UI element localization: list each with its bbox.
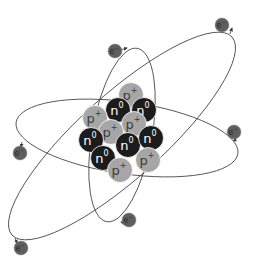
electron: e−: [108, 44, 122, 58]
proton: p+: [136, 148, 161, 173]
atom-diagram: p+n0n0p+p+p+n0n0n0n0p+p+ e−e−e−e−e−e−: [0, 0, 255, 268]
electron: e−: [14, 241, 28, 255]
neutron: n0: [139, 126, 164, 151]
nucleus: p+n0n0p+p+p+n0n0n0n0p+p+: [79, 83, 164, 183]
electron: e−: [122, 213, 136, 227]
proton: p+: [108, 158, 133, 183]
electron: e−: [215, 18, 229, 32]
electron: e−: [227, 125, 241, 139]
electron: e−: [13, 146, 27, 160]
orbit-arrow-icon: [230, 28, 232, 34]
